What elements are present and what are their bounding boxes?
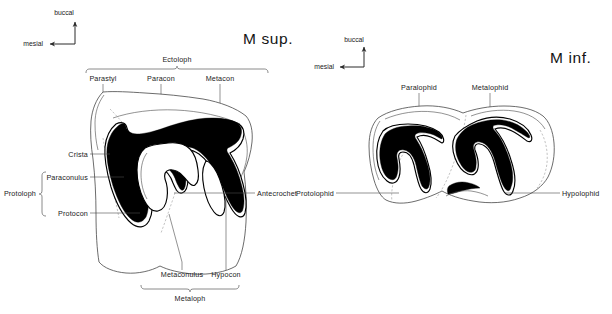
figure-root: buccal mesial M sup. Ectoloph Parastyl P…	[0, 0, 612, 314]
metaloph-bracket: Metaloph	[141, 285, 239, 303]
upper-orientation-indicator: buccal mesial	[23, 9, 75, 47]
protoloph-bracket: Protoloph	[4, 172, 46, 216]
ectoloph-bracket: Ectoloph	[86, 55, 268, 73]
metacon-label: Metacon	[206, 74, 235, 83]
metaloph-label: Metaloph	[175, 294, 206, 303]
upper-mesial-label: mesial	[23, 40, 43, 47]
paralophid-label: Paralophid	[401, 83, 437, 92]
lower-buccal-label: buccal	[344, 36, 364, 43]
upper-buccal-label: buccal	[54, 9, 74, 16]
lower-molar-title: M inf.	[550, 49, 592, 66]
metalophid-label: Metalophid	[472, 83, 509, 92]
ectoloph-label: Ectoloph	[162, 55, 191, 64]
molar-diagram-svg: buccal mesial M sup. Ectoloph Parastyl P…	[0, 0, 612, 314]
upper-molar-title: M sup.	[243, 30, 293, 47]
protolophid-label: Protolophid	[296, 189, 334, 198]
protocon-label: Protocon	[58, 209, 88, 218]
upper-molar-group: buccal mesial M sup. Ectoloph Parastyl P…	[4, 9, 297, 303]
lower-mesial-label: mesial	[314, 63, 334, 70]
crista-label: Crista	[68, 150, 88, 159]
protoloph-label: Protoloph	[4, 189, 36, 198]
parastyl-label: Parastyl	[89, 74, 116, 83]
lower-orientation-indicator: buccal mesial	[314, 36, 364, 70]
antecrochet-label: Antecrochet	[257, 189, 297, 198]
hypolophid-label: Hypolophid	[562, 189, 599, 198]
lower-molar-group: buccal mesial M inf. Paralophid Metaloph…	[296, 36, 599, 203]
hypocon-label: Hypocon	[211, 270, 240, 279]
metaconulus-label: Metaconulus	[161, 270, 204, 279]
paraconulus-label: Paraconulus	[46, 173, 88, 182]
paracon-label: Paracon	[147, 74, 175, 83]
